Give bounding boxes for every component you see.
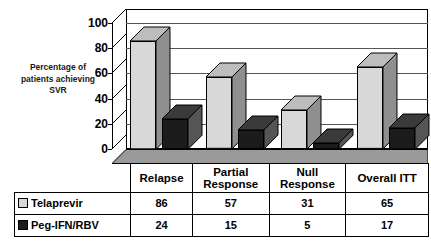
y-axis-tick-label: 80 <box>95 42 108 54</box>
y-axis-tick-connector <box>112 59 126 73</box>
y-axis-tick-connector <box>112 85 126 99</box>
bar-peg-ifn-rbv-relapse <box>162 105 202 149</box>
table-cell: 65 <box>346 193 429 215</box>
chart-floor <box>112 149 428 163</box>
table-header-cell: Relapse <box>131 164 193 193</box>
legend-item-telaprevir: Telaprevir <box>15 193 131 215</box>
data-table: Relapse Partial Response Null Response O… <box>14 163 429 237</box>
table-header-line1: Relapse <box>131 172 192 185</box>
table-cell: 57 <box>192 193 269 215</box>
gridline <box>126 48 428 49</box>
table-cell: 86 <box>131 193 193 215</box>
dark-square-icon <box>18 220 28 230</box>
table-header-cell: Null Response <box>269 164 346 193</box>
y-axis-tick-connector <box>112 135 126 149</box>
table-header-line1: Overall ITT <box>346 172 428 185</box>
table-header-line1: Null <box>270 166 346 179</box>
bar-peg-ifn-rbv-overall-itt <box>389 114 429 149</box>
legend-label: Peg-IFN/RBV <box>31 219 99 231</box>
table-header-blank <box>15 164 131 193</box>
table-header-row: Relapse Partial Response Null Response O… <box>15 164 429 193</box>
bar-peg-ifn-rbv-null-response <box>313 129 353 149</box>
table-header-cell: Partial Response <box>192 164 269 193</box>
table-header-line1: Partial <box>193 166 269 179</box>
table-row: Telaprevir 86 57 31 65 <box>15 193 429 215</box>
table-cell: 17 <box>346 215 429 237</box>
y-axis-tick-label: 20 <box>95 118 108 130</box>
y-axis-tick-connector <box>112 9 126 23</box>
y-axis-tick-connector <box>112 34 126 48</box>
legend-item-peg-ifn-rbv: Peg-IFN/RBV <box>15 215 131 237</box>
table-cell: 15 <box>192 215 269 237</box>
table-header-line2: Response <box>193 178 269 191</box>
y-axis-tick-label: 40 <box>95 93 108 105</box>
y-axis-tick-label: 60 <box>95 67 108 79</box>
table-row: Peg-IFN/RBV 24 15 5 17 <box>15 215 429 237</box>
legend-label: Telaprevir <box>31 197 83 209</box>
y-axis-tick-connector <box>112 110 126 124</box>
bar-peg-ifn-rbv-partial-response <box>238 116 278 149</box>
table-cell: 5 <box>269 215 346 237</box>
table-cell: 24 <box>131 215 193 237</box>
y-axis-tick-label: 0 <box>101 143 108 155</box>
table-header-cell: Overall ITT <box>346 164 429 193</box>
chart-plot-area: 020406080100 <box>112 9 428 163</box>
y-axis-tick-label: 100 <box>88 17 108 29</box>
table-header-line2: Response <box>270 178 346 191</box>
table-cell: 31 <box>269 193 346 215</box>
gridline <box>126 23 428 24</box>
light-square-icon <box>18 198 28 208</box>
